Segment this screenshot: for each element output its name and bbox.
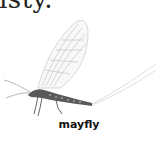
- figure-caption: mayfly: [0, 118, 158, 131]
- cropped-heading-text: isty.: [0, 0, 53, 12]
- wing: [38, 21, 88, 89]
- front-legs: [4, 80, 30, 98]
- tail-filaments: [92, 64, 156, 105]
- mayfly-illustration: [0, 18, 158, 122]
